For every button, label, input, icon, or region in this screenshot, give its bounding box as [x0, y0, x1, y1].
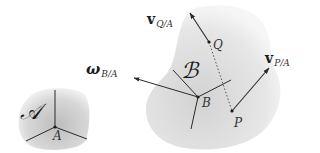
- point-a-label: A: [53, 130, 62, 142]
- omega-label: ωB/A: [86, 62, 117, 77]
- point-q-label: Q: [213, 39, 223, 51]
- velocity-p-symbol: v: [265, 50, 273, 66]
- point-p-label: P: [234, 117, 242, 129]
- body-a-label: 𝒜: [20, 101, 41, 123]
- omega-subscript: B/A: [101, 69, 117, 79]
- point-p-dot: [230, 109, 233, 112]
- velocity-q-subscript: Q/A: [156, 19, 173, 29]
- body-b-label: ℬ: [181, 60, 198, 82]
- point-q-dot: [207, 40, 210, 43]
- omega-symbol: ω: [86, 60, 100, 78]
- velocity-p-subscript: P/A: [274, 58, 290, 68]
- velocity-p-label: vP/A: [265, 51, 290, 65]
- velocity-q-label: vQ/A: [147, 12, 173, 26]
- point-b-label: B: [202, 97, 211, 109]
- velocity-q-symbol: v: [147, 11, 155, 27]
